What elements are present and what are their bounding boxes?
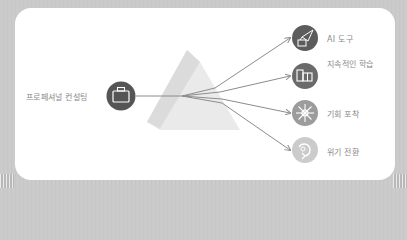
briefcase-icon <box>107 82 136 111</box>
books-icon <box>292 63 318 89</box>
snowflake-flower-icon <box>292 100 318 126</box>
prism-shape <box>147 50 240 130</box>
output-label-continuous-learning: 지속적인 학습 <box>327 58 374 69</box>
cycle-arrow-icon <box>292 137 318 163</box>
source-label: 프로페셔널 컨설팅 <box>26 91 87 102</box>
output-label-ai-tools: AI 도구 <box>327 33 353 44</box>
rocket-robot-icon <box>292 25 318 51</box>
output-rays <box>182 38 290 150</box>
output-label-opportunity: 기회 포착 <box>327 108 359 119</box>
output-label-crisis-turnaround: 위기 전환 <box>327 146 359 157</box>
